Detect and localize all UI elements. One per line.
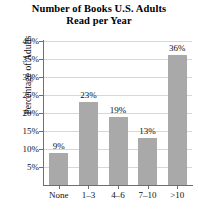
- x-tick-mark: [88, 185, 89, 189]
- y-tick-label: 30%: [2, 72, 39, 82]
- y-tick-label: 15%: [2, 126, 39, 136]
- bar: [168, 55, 187, 185]
- y-tick-label: 35%: [2, 54, 39, 64]
- x-tick-mark: [118, 185, 119, 189]
- bar-value-label: 36%: [161, 43, 193, 53]
- y-tick-label: 25%: [2, 90, 39, 100]
- x-axis-category-label: >10: [159, 190, 195, 200]
- bar: [109, 117, 128, 185]
- bar: [49, 153, 68, 185]
- bar-value-label: 13%: [132, 126, 164, 136]
- bar-chart: Number of Books U.S. Adults Read per Yea…: [0, 0, 198, 217]
- bar-value-label: 23%: [72, 90, 104, 100]
- x-tick-mark: [177, 185, 178, 189]
- y-tick-label: 5%: [2, 162, 39, 172]
- bar-value-label: 9%: [43, 141, 75, 151]
- y-tick-label: 40%: [2, 36, 39, 46]
- y-tick-label: 10%: [2, 144, 39, 154]
- x-tick-mark: [148, 185, 149, 189]
- bar: [138, 138, 157, 185]
- y-tick-label: 20%: [2, 108, 39, 118]
- bar-value-label: 19%: [102, 105, 134, 115]
- bar: [79, 102, 98, 185]
- x-tick-mark: [59, 185, 60, 189]
